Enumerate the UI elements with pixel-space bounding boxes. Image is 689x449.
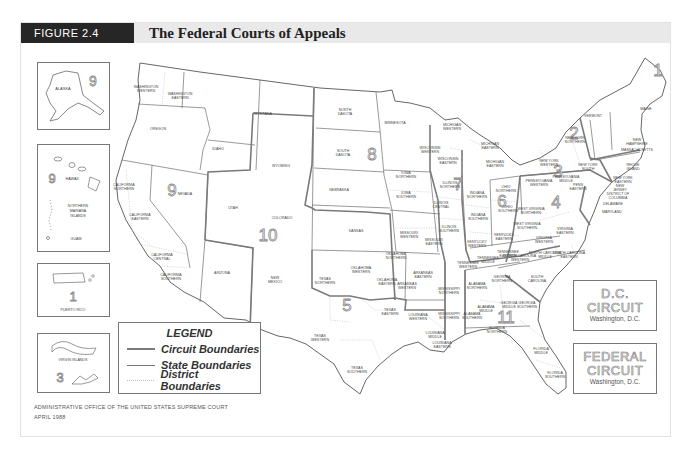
district-label: EASTERN [132, 217, 149, 221]
district-label: MONTANA [254, 112, 272, 116]
district-label: MIDDLE [481, 260, 495, 264]
district-label: NORTHERN [467, 286, 488, 290]
district-label: CENTRAL [154, 257, 171, 261]
district-label: IDAHO [212, 147, 224, 151]
district-label: CENTRAL [433, 205, 450, 209]
svg-text:9: 9 [48, 171, 55, 186]
alaska-shape: ALASKA 9 [38, 63, 109, 129]
district-label: WESTERN [400, 235, 418, 239]
district-label: KANSAS [349, 229, 364, 233]
district-label: MIDDLE [479, 309, 493, 313]
dc-circuit-line1: D.C. [574, 287, 656, 301]
circuit-number: 5 [342, 296, 351, 315]
inset-hawaii-pacific: 9 HAWAII NORTHERN MARIANA ISLANDS GUAM [37, 144, 110, 252]
svg-text:GUAM: GUAM [71, 237, 82, 241]
district-label: WESTERN [311, 338, 329, 342]
district-label: EASTERN [382, 312, 399, 316]
district-label: DELAWARE [603, 202, 624, 206]
district-label: WESTERN [468, 244, 486, 248]
district-label: WYOMING [272, 164, 290, 168]
district-label: WESTERN [535, 240, 553, 244]
svg-text:MARIANA: MARIANA [70, 209, 87, 213]
district-label: EASTERN [172, 96, 189, 100]
district-label: NORTHERN [396, 175, 417, 179]
district-label: DAKOTA [338, 112, 353, 116]
district-label: EASTERN [557, 231, 574, 235]
district-label: SOUTHERN [498, 209, 519, 213]
district-label: DAKOTA [336, 153, 351, 157]
district-label: EASTERN [426, 242, 443, 246]
district-label: UTAH [228, 206, 238, 210]
inset-alaska: ALASKA 9 [37, 62, 110, 130]
district-label: WESTERN [459, 265, 477, 269]
district-label: ISLAND [627, 167, 640, 171]
district-label: MIDDLE [534, 351, 548, 355]
district-label: SOUTHERN [468, 217, 489, 221]
date-credit: APRIL 1988 [34, 414, 65, 420]
svg-text:3: 3 [56, 370, 63, 385]
state-line-swatch [127, 365, 155, 366]
map-legend: LEGEND Circuit Boundaries State Boundari… [118, 322, 261, 394]
federal-circuit-box: FEDERAL CIRCUIT Washington, D.C. [573, 343, 657, 394]
district-label: NORTHERN [386, 256, 407, 260]
district-label: MEXICO [268, 280, 282, 284]
district-label: ARIZONA [214, 271, 231, 275]
district-label: OREGON [150, 127, 166, 131]
district-label: COLUMBIA [609, 196, 628, 200]
district-label: SOUTHERN [439, 316, 460, 320]
district-label: SOUTHERN [545, 375, 566, 379]
district-label: MIDDLE [502, 305, 516, 309]
inset-puerto-rico: 1 PUERTO RICO [37, 263, 110, 317]
district-label: NORTHERN [315, 281, 336, 285]
svg-text:PUERTO RICO: PUERTO RICO [61, 308, 86, 312]
circuit-line-swatch [127, 348, 155, 350]
district-label: EASTERN [561, 255, 578, 259]
district-label: MIDDLE [538, 255, 552, 259]
legend-label: District Boundaries [160, 368, 260, 392]
district-label: WESTERN [530, 183, 548, 187]
district-label: EASTERN [482, 146, 499, 150]
district-label: CAROLINA [528, 279, 547, 283]
district-label: MARYLAND [602, 210, 622, 214]
district-label: SOUTHERN [517, 305, 538, 309]
circuit-number: 4 [551, 193, 560, 212]
district-label: SOUTHERN [462, 316, 483, 320]
svg-text:ISLANDS: ISLANDS [70, 214, 86, 218]
district-label: WESTERN [443, 127, 461, 131]
inset-virgin-islands: VIRGIN ISLANDS 3 [37, 333, 110, 393]
district-label: SOUTHERN [517, 226, 538, 230]
district-label: MASSACHUSETTS [621, 148, 654, 152]
district-label: SOUTHERN [347, 370, 368, 374]
district-line-swatch [127, 380, 154, 381]
svg-text:VIRGIN ISLANDS: VIRGIN ISLANDS [59, 358, 88, 362]
federal-circuit-city: Washington, D.C. [574, 378, 656, 385]
district-label: MAINE [640, 107, 652, 111]
district-label: NORTHERN [440, 185, 461, 189]
district-label: EASTERN [379, 282, 396, 286]
district-label: WESTERN [352, 270, 370, 274]
district-label: COLORADO [272, 216, 293, 220]
district-label: NORTHERN [114, 187, 135, 191]
district-label: WESTERN [398, 286, 416, 290]
district-label: NORTHERN [565, 140, 586, 144]
district-label: HAMPSHIRE [626, 142, 648, 146]
legend-item-circuit: Circuit Boundaries [127, 342, 259, 356]
district-label: EASTERN [570, 187, 587, 191]
district-label: WESTERN [137, 89, 155, 93]
district-label: EASTERN [496, 237, 513, 241]
district-label: MINNESOTA [384, 121, 406, 125]
svg-text:9: 9 [89, 73, 97, 89]
legend-label: Circuit Boundaries [161, 343, 259, 355]
svg-text:ALASKA: ALASKA [55, 86, 71, 91]
district-label: NORTHERN [467, 195, 488, 199]
federal-circuit-line2: CIRCUIT [574, 364, 656, 378]
legend-title: LEGEND [119, 327, 260, 339]
district-label: NORTHERN [439, 291, 460, 295]
district-label: WESTERN [409, 317, 427, 321]
circuit-number: 11 [497, 308, 515, 327]
district-label: EASTERN [440, 161, 457, 165]
district-label: WESTERN [511, 258, 529, 262]
dc-circuit-box: D.C. CIRCUIT Washington, D.C. [573, 280, 657, 331]
district-label: SOUTHERN [439, 229, 460, 233]
federal-circuit-line1: FEDERAL [574, 350, 656, 364]
